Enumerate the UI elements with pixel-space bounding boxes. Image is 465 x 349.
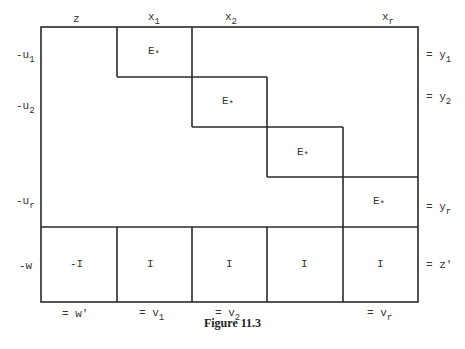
row-label-ur: -ur (16, 195, 35, 207)
block-e-star-4: E* (373, 195, 385, 207)
row-label-u1: -u1 (16, 49, 35, 61)
row-result-y1: = y1 (426, 49, 451, 61)
column-header-x2: x2 (225, 11, 237, 23)
column-header-xr: xr (382, 11, 394, 23)
block-matrix-figure: z x1 x2 xr -u1 -u2 -ur -w = y1 = y2 = yr… (0, 0, 465, 349)
row-result-z-prime: = z' (426, 259, 452, 271)
bottom-cell-identity-2: I (226, 258, 233, 270)
row-label-w: -w (19, 260, 32, 272)
row-result-y2: = y2 (426, 91, 451, 103)
block-e-star-2: E* (222, 95, 234, 107)
figure-caption: Figure 11.3 (0, 316, 465, 331)
matrix-grid-lines (0, 0, 465, 349)
bottom-cell-neg-identity: -I (70, 258, 83, 270)
bottom-cell-identity-3: I (301, 258, 308, 270)
column-header-x1: x1 (148, 11, 160, 23)
block-e-star-1: E* (148, 45, 160, 57)
block-e-star-3: E* (297, 146, 309, 158)
row-result-yr: = yr (426, 201, 451, 213)
row-label-u2: -u2 (16, 100, 35, 112)
bottom-cell-identity-1: I (147, 258, 154, 270)
bottom-cell-identity-4: I (377, 258, 384, 270)
column-header-z: z (73, 13, 80, 25)
